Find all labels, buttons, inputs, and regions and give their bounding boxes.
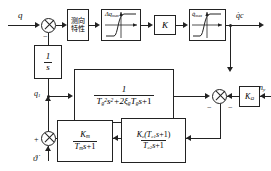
ny-subscript: y	[263, 87, 265, 92]
block-limiter-delta-q-max: Δqmax	[101, 9, 141, 41]
gain-K-label: K	[162, 20, 168, 30]
right-sum-minus-right: −	[228, 104, 233, 112]
sum-input-minus-sign: −	[43, 33, 48, 41]
limiter2-label: q̇max	[192, 11, 202, 18]
signal-label-ny: ny	[259, 84, 265, 93]
signal-label-q1: q1	[34, 90, 40, 99]
motor-denominator: Tms+1	[73, 141, 98, 152]
signal-label-q: q	[18, 11, 23, 20]
arrow-ny-into-Komega	[260, 93, 265, 99]
arrow-q1-to-secondorder	[68, 93, 73, 99]
arrow-gainK-to-limiter2	[183, 22, 188, 28]
integrator-fraction: 1 s	[44, 52, 53, 72]
arrow-into-leadlag	[186, 135, 191, 141]
sum-junction-input	[41, 18, 56, 33]
block-integrator-1-over-s: 1 s	[34, 45, 62, 79]
arrow-input-to-sum	[35, 22, 40, 28]
block-gain-K-omega: KΩ	[239, 86, 260, 107]
limiter2-label-sub: max	[195, 13, 202, 18]
motor-numerator: Km	[78, 130, 91, 140]
wire-rightsum-down-to-leadlag	[220, 104, 221, 139]
motor-fraction: Km Tms+1	[73, 130, 98, 151]
wire-secondorder-to-rightsum	[174, 96, 208, 97]
wire-output-down-to-rightsum	[230, 25, 231, 70]
limiter1-label: Δqmax	[105, 11, 119, 18]
secondorder-fraction: 1 Tg2s2+2ξgTgs+1	[94, 85, 153, 106]
signal-label-theta-dot: ϑ̇	[33, 154, 37, 163]
limiter1-label-sub: max	[112, 13, 119, 18]
block-direction-finding-characteristic: 测向 特性	[67, 9, 89, 41]
block-motor-lag: Km Tms+1	[57, 120, 113, 162]
wire-q1-to-secondorder	[48, 96, 70, 97]
block-limiter-qdot-max: q̇max	[189, 9, 226, 41]
q1-subscript: 1	[38, 93, 40, 98]
arrow-output-qdot-c	[259, 22, 264, 28]
wire-sum-down-to-integrator	[48, 33, 49, 45]
leadlag-fraction: Kc(Tc1s+1) Tc2s+1	[135, 131, 173, 149]
arrow-down-to-rightsum	[227, 67, 233, 72]
integrator-numerator: 1	[44, 52, 53, 62]
arrow-thetadot-into-bottomsum	[45, 146, 51, 151]
Komega-subscript: Ω	[250, 96, 254, 101]
arrow-dirfinder-to-limiter1	[95, 22, 100, 28]
wire-integrator-down-to-q1node	[48, 79, 49, 96]
dirfinder-line1: 测向	[71, 17, 85, 25]
arrow-leadlag-to-motor	[113, 135, 118, 141]
block-second-order-transfer: 1 Tg2s2+2ξgTgs+1	[74, 69, 174, 123]
secondorder-numerator: 1	[120, 85, 129, 95]
wire-to-leadlag-input	[186, 138, 220, 139]
block-gain-K: K	[154, 15, 176, 35]
integrator-denominator: s	[44, 62, 52, 73]
arrow-limiter1-to-gainK	[148, 22, 153, 28]
sum-junction-bottom	[41, 131, 56, 146]
dirfinder-text: 测向 特性	[71, 17, 85, 33]
gain-Komega-label: KΩ	[245, 92, 254, 101]
wire-q1-down-to-bottomsum	[48, 96, 49, 134]
block-diagram-canvas: q − 测向 特性 Δqmax K	[0, 0, 271, 171]
signal-label-qdot-c: q̇c	[236, 12, 244, 20]
secondorder-denominator: Tg2s2+2ξgTgs+1	[94, 95, 153, 106]
leadlag-numerator: Kc(Tc1s+1)	[135, 131, 173, 140]
leadlag-denominator: Tc2s+1	[141, 140, 166, 150]
sum-junction-right	[212, 89, 227, 104]
block-lead-lag-compensator: Kc(Tc1s+1) Tc2s+1	[121, 118, 186, 163]
dirfinder-line2: 特性	[71, 25, 85, 33]
wire-input-to-sum	[8, 25, 36, 26]
arrow-Komega-to-rightsum	[227, 93, 232, 99]
arrow-secondorder-to-rightsum	[205, 93, 210, 99]
right-sum-minus-left: −	[207, 104, 212, 112]
bottom-sum-plus-sign: +	[34, 136, 39, 144]
